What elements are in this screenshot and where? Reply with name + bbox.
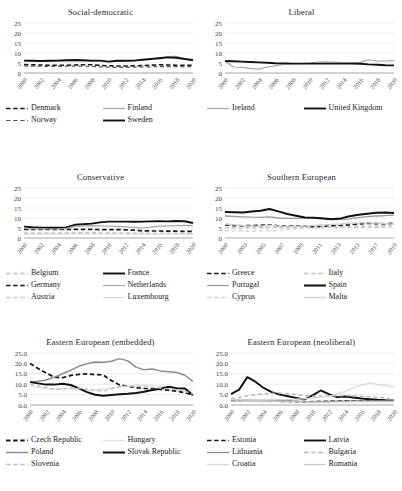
legend-item[interactable]: Denmark — [6, 103, 99, 113]
x-tick-label: 2010 — [103, 408, 116, 422]
legend-swatch — [207, 449, 229, 456]
legend-item[interactable]: Netherlands — [103, 280, 196, 290]
x-tick-label: 2014 — [133, 76, 146, 90]
x-tick-label: 2005 — [254, 241, 267, 255]
legend-item[interactable]: Ireland — [207, 103, 300, 113]
legend-item[interactable]: Italy — [304, 268, 397, 278]
legend-swatch — [207, 461, 229, 468]
legend-item[interactable]: Malta — [304, 292, 397, 302]
legend-item[interactable]: United Kingdom — [304, 103, 397, 113]
legend-item[interactable]: Estonia — [207, 435, 300, 445]
x-tick-label: 2006 — [267, 76, 280, 90]
y-tick-label: 5 — [18, 225, 22, 233]
chart-panel: Conservative0510152025200020022004200620… — [0, 165, 201, 330]
legend-swatch — [304, 282, 326, 289]
legend-swatch — [207, 270, 229, 277]
legend-item[interactable]: Czech Republic — [6, 435, 99, 445]
legend-item[interactable]: Austria — [6, 292, 99, 302]
legend-item[interactable]: Germany — [6, 280, 99, 290]
x-tick-label: 2018 — [368, 76, 381, 90]
legend-item[interactable]: Croatia — [207, 459, 300, 469]
legend-item[interactable]: Romania — [304, 459, 397, 469]
series-line — [231, 383, 394, 400]
legend-label: Denmark — [31, 103, 61, 113]
x-tick-label: 2010 — [100, 241, 113, 255]
legend-swatch — [103, 437, 125, 444]
legend-swatch — [103, 105, 125, 112]
y-tick-label: 5 — [18, 60, 22, 68]
y-tick-label: 20 — [14, 30, 22, 38]
x-tick-label: 2006 — [70, 408, 83, 422]
chart-panel: Eastern European (embedded)0.05.010.015.… — [0, 330, 201, 491]
legend-swatch — [207, 294, 229, 301]
legend-item[interactable]: Belgium — [6, 268, 99, 278]
legend-label: Estonia — [232, 435, 256, 445]
panel-title: Liberal — [201, 7, 402, 17]
x-tick-label: 2015 — [348, 241, 361, 255]
legend-item[interactable]: France — [103, 268, 196, 278]
legend-item[interactable]: Latvia — [304, 435, 397, 445]
legend-item[interactable]: Portugal — [207, 280, 300, 290]
legend-swatch — [6, 270, 28, 277]
legend-item[interactable]: Spain — [304, 280, 397, 290]
y-tick-label: 15.0 — [15, 370, 28, 378]
chart-grid: Social-democratic05101520252000200220042… — [0, 0, 402, 491]
legend-label: Greece — [232, 268, 255, 278]
y-tick-label: 10 — [215, 215, 223, 223]
panel-title: Southern European — [201, 172, 402, 182]
legend-item[interactable]: Norway — [6, 115, 99, 125]
x-tick-label: 2004 — [250, 76, 263, 90]
y-tick-label: 25 — [215, 20, 223, 28]
x-tick-label: 2020 — [184, 241, 197, 255]
legend-label: Croatia — [232, 459, 256, 469]
legend-item[interactable]: Finland — [103, 103, 196, 113]
legend-label: Ireland — [232, 103, 255, 113]
series-line — [24, 57, 193, 61]
legend-item[interactable]: Slovenia — [6, 459, 99, 469]
x-tick-label: 2002 — [233, 76, 246, 90]
legend-item[interactable]: Sweden — [103, 115, 196, 125]
x-tick-label: 2002 — [238, 408, 251, 422]
x-tick-label: 2013 — [329, 241, 342, 255]
legend-label: Norway — [31, 115, 57, 125]
y-tick-label: 10 — [14, 50, 22, 58]
series-line — [30, 363, 193, 395]
y-tick-label: 25.0 — [216, 350, 229, 358]
x-tick-label: 2004 — [49, 241, 62, 255]
x-tick-label: 2008 — [86, 408, 99, 422]
y-tick-label: 25 — [215, 185, 223, 193]
legend: Czech RepublicHungaryPolandSlovak Republ… — [0, 435, 201, 469]
y-tick-label: 5.0 — [18, 391, 27, 399]
legend: DenmarkFinlandNorwaySweden — [0, 103, 201, 125]
legend-swatch — [207, 437, 229, 444]
legend-item[interactable]: Luxembourg — [103, 292, 196, 302]
legend-label: Sweden — [128, 115, 153, 125]
legend-item[interactable]: Hungary — [103, 435, 196, 445]
x-tick-label: 2008 — [83, 241, 96, 255]
legend-swatch — [103, 294, 125, 301]
y-tick-label: 5 — [219, 60, 223, 68]
legend-label: Latvia — [329, 435, 349, 445]
legend-label: Malta — [329, 292, 348, 302]
legend-item[interactable]: Bulgaria — [304, 447, 397, 457]
legend-label: Italy — [329, 268, 344, 278]
legend-item[interactable]: Slovak Republic — [103, 447, 196, 457]
legend-item[interactable]: Lithuania — [207, 447, 300, 457]
x-tick-label: 2011 — [310, 241, 323, 255]
legend-item[interactable]: Cyprus — [207, 292, 300, 302]
panel-title: Social-democratic — [0, 7, 201, 17]
x-tick-label: 2002 — [32, 241, 45, 255]
legend-item[interactable]: Poland — [6, 447, 99, 457]
x-tick-label: 2009 — [291, 241, 304, 255]
legend-swatch — [6, 461, 28, 468]
y-tick-label: 5.0 — [219, 391, 228, 399]
x-tick-label: 2012 — [320, 408, 333, 422]
x-tick-label: 2004 — [54, 408, 67, 422]
panel-title: Eastern European (embedded) — [0, 337, 201, 347]
legend: IrelandUnited Kingdom — [201, 103, 402, 113]
x-tick-label: 2018 — [167, 241, 180, 255]
legend-item[interactable]: Greece — [207, 268, 300, 278]
legend-label: Belgium — [31, 268, 59, 278]
legend-label: Bulgaria — [329, 447, 357, 457]
legend-swatch — [6, 437, 28, 444]
